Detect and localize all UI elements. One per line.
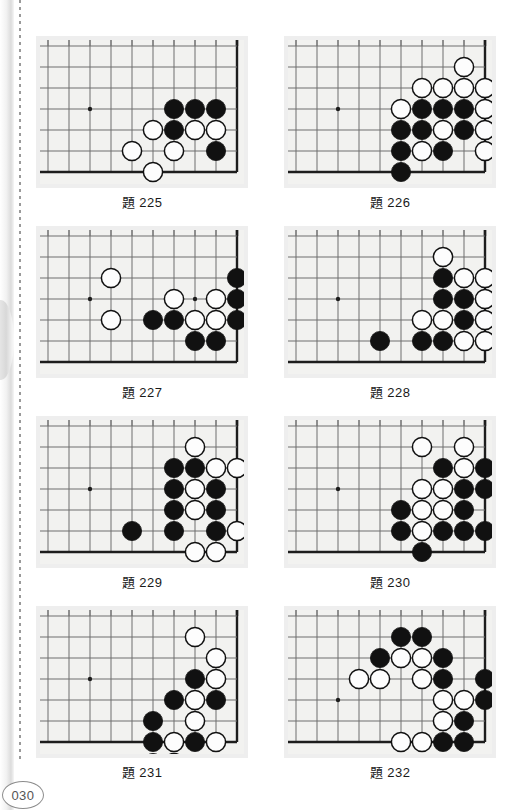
white-stone[interactable] [206,289,225,308]
white-stone[interactable] [475,310,492,329]
black-stone[interactable] [433,521,452,540]
black-stone[interactable] [143,711,162,730]
black-stone[interactable] [143,732,162,751]
white-stone[interactable] [475,99,492,118]
black-stone[interactable] [433,648,452,667]
black-stone[interactable] [454,732,473,751]
black-stone[interactable] [454,521,473,540]
black-stone[interactable] [206,141,225,160]
go-board-227[interactable] [36,226,248,378]
white-stone[interactable] [164,141,183,160]
white-stone[interactable] [433,711,452,730]
black-stone[interactable] [185,669,204,688]
black-stone[interactable] [412,331,431,350]
black-stone[interactable] [164,458,183,477]
white-stone[interactable] [475,120,492,139]
black-stone[interactable] [206,690,225,709]
white-stone[interactable] [185,690,204,709]
white-stone[interactable] [101,310,120,329]
black-stone[interactable] [454,120,473,139]
black-stone[interactable] [185,732,204,751]
black-stone[interactable] [433,732,452,751]
black-stone[interactable] [164,521,183,540]
white-stone[interactable] [433,120,452,139]
white-stone[interactable] [227,458,244,477]
white-stone[interactable] [227,521,244,540]
black-stone[interactable] [412,120,431,139]
white-stone[interactable] [412,500,431,519]
go-board-229[interactable] [36,416,248,568]
white-stone[interactable] [164,732,183,751]
black-stone[interactable] [391,120,410,139]
black-stone[interactable] [122,521,141,540]
black-stone[interactable] [454,479,473,498]
white-stone[interactable] [454,690,473,709]
black-stone[interactable] [433,141,452,160]
white-stone[interactable] [143,162,162,181]
go-board-231[interactable] [36,606,248,758]
white-stone[interactable] [206,120,225,139]
white-stone[interactable] [433,310,452,329]
black-stone[interactable] [185,458,204,477]
white-stone[interactable] [412,521,431,540]
go-board-232[interactable] [284,606,496,758]
white-stone[interactable] [412,310,431,329]
white-stone[interactable] [185,542,204,561]
white-stone[interactable] [412,141,431,160]
white-stone[interactable] [475,331,492,350]
white-stone[interactable] [391,99,410,118]
black-stone[interactable] [227,310,244,329]
black-stone[interactable] [412,627,431,646]
black-stone[interactable] [454,500,473,519]
black-stone[interactable] [433,268,452,287]
white-stone[interactable] [475,141,492,160]
black-stone[interactable] [164,690,183,709]
black-stone[interactable] [412,99,431,118]
white-stone[interactable] [412,732,431,751]
white-stone[interactable] [185,627,204,646]
black-stone[interactable] [185,99,204,118]
white-stone[interactable] [391,648,410,667]
black-stone[interactable] [433,669,452,688]
white-stone[interactable] [412,669,431,688]
white-stone[interactable] [454,78,473,97]
go-board-226[interactable] [284,36,496,188]
black-stone[interactable] [164,99,183,118]
white-stone[interactable] [185,711,204,730]
white-stone[interactable] [370,669,389,688]
white-stone[interactable] [454,268,473,287]
white-stone[interactable] [475,78,492,97]
go-board-230[interactable] [284,416,496,568]
black-stone[interactable] [164,500,183,519]
white-stone[interactable] [206,648,225,667]
black-stone[interactable] [454,711,473,730]
white-stone[interactable] [454,57,473,76]
white-stone[interactable] [101,268,120,287]
white-stone[interactable] [454,331,473,350]
white-stone[interactable] [391,732,410,751]
white-stone[interactable] [412,479,431,498]
white-stone[interactable] [206,669,225,688]
white-stone[interactable] [185,310,204,329]
white-stone[interactable] [185,120,204,139]
black-stone[interactable] [433,99,452,118]
go-board-228[interactable] [284,226,496,378]
black-stone[interactable] [164,479,183,498]
black-stone[interactable] [391,500,410,519]
white-stone[interactable] [185,479,204,498]
white-stone[interactable] [185,437,204,456]
black-stone[interactable] [454,289,473,308]
black-stone[interactable] [227,268,244,287]
black-stone[interactable] [454,310,473,329]
black-stone[interactable] [391,162,410,181]
white-stone[interactable] [433,500,452,519]
black-stone[interactable] [164,120,183,139]
white-stone[interactable] [143,120,162,139]
black-stone[interactable] [391,521,410,540]
white-stone[interactable] [433,247,452,266]
black-stone[interactable] [433,458,452,477]
black-stone[interactable] [412,542,431,561]
black-stone[interactable] [475,669,492,688]
black-stone[interactable] [391,141,410,160]
white-stone[interactable] [412,78,431,97]
